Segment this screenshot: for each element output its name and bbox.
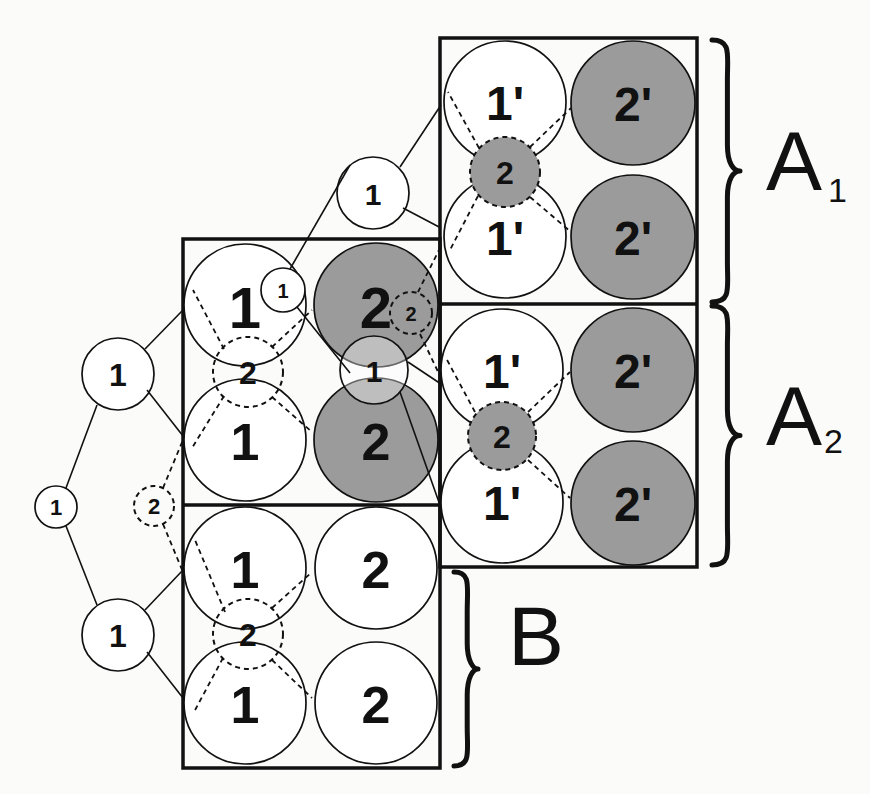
- b-node-2-top: 2: [315, 507, 437, 629]
- left-node-2-top-label: 2: [360, 275, 392, 340]
- edge-topnode-box-top: [400, 105, 441, 167]
- a1-node-2prime-top: 2': [571, 41, 695, 165]
- b-node-2-dashed-label: 2: [239, 617, 257, 653]
- tree-node-root-label: 1: [50, 495, 62, 520]
- label-a1-subscript: 1: [828, 171, 847, 209]
- label-a2-text: A: [766, 369, 822, 463]
- edge-upper-box-bottom: [147, 390, 183, 436]
- label-b-text: B: [508, 589, 564, 683]
- label-a2: A2: [766, 369, 843, 463]
- label-a2-subscript: 2: [824, 422, 843, 460]
- edge-upper-box-top: [145, 310, 183, 349]
- b-node-2-bottom: 2: [315, 642, 437, 764]
- left-node-1-bottom: 1: [184, 379, 306, 501]
- a2-node-2prime-top: 2': [571, 308, 695, 432]
- left-node-1-mid-label: 1: [366, 355, 383, 388]
- a2-node-2prime-bottom: 2': [571, 441, 695, 565]
- left-node-1-small: 1: [261, 268, 305, 312]
- left-node-2-bottom-label: 2: [362, 413, 391, 471]
- a1-node-1prime-top-label: 1': [486, 77, 524, 130]
- tree-node-lower: 1: [82, 599, 154, 671]
- edge-root-lower: [66, 526, 97, 605]
- grouping-diagram: 1'2'1'2'21'2'1'2'2121221211212211121 A1A…: [0, 0, 870, 794]
- b-node-1-top: 1: [184, 507, 306, 629]
- brace-b: [454, 572, 478, 766]
- edge-dashed2-down: [163, 524, 183, 572]
- tree-node-dashed-2: 2: [134, 486, 174, 526]
- brace-a2: [712, 306, 740, 565]
- brace-a1: [712, 40, 740, 302]
- a1-node-2-shared-label: 2: [496, 155, 514, 191]
- left-node-1-small-label: 1: [277, 280, 288, 302]
- a2-node-1prime-top-label: 1': [483, 345, 521, 398]
- b-node-1-top-label: 1: [231, 541, 260, 599]
- a2-node-2prime-top-label: 2': [614, 345, 652, 398]
- a1-node-2prime-bottom-label: 2': [614, 212, 652, 265]
- tree-node-upper: 1: [82, 338, 154, 410]
- left-node-2-small-dashed-label: 2: [405, 303, 416, 325]
- left-node-2-dashed-label: 2: [239, 355, 257, 391]
- edge-lower-box-bottom: [147, 652, 183, 698]
- circles-layer: 1'2'1'2'21'2'1'2'2121221211212211121: [35, 41, 695, 764]
- b-node-2-top-label: 2: [362, 541, 391, 599]
- edge-dashed2-up: [163, 440, 183, 488]
- a2-node-1prime-bottom-label: 1': [483, 477, 521, 530]
- a2-node-2-shared: 2: [468, 402, 536, 470]
- edge-lower-box-top: [145, 570, 183, 610]
- left-node-1-mid: 1: [340, 336, 408, 404]
- b-node-2-bottom-label: 2: [362, 676, 391, 734]
- a1-node-2prime-bottom: 2': [571, 175, 695, 299]
- tree-node-root: 1: [35, 486, 77, 528]
- left-node-1-bottom-label: 1: [231, 413, 260, 471]
- left-node-1-top-label: 1: [229, 275, 261, 340]
- b-node-1-bottom: 1: [184, 642, 306, 764]
- tree-node-upper-label: 1: [109, 357, 127, 393]
- tree-node-dashed-2-label: 2: [148, 494, 160, 519]
- a1-node-2prime-top-label: 2': [614, 78, 652, 131]
- label-a1-text: A: [766, 114, 822, 208]
- a2-node-2-shared-label: 2: [493, 419, 511, 455]
- edge-root-upper: [66, 405, 97, 488]
- tree-node-top-label: 1: [365, 178, 382, 211]
- label-b: B: [508, 589, 564, 683]
- a1-node-2-shared: 2: [470, 137, 540, 207]
- a2-node-2prime-bottom-label: 2': [614, 478, 652, 531]
- b-node-1-bottom-label: 1: [231, 676, 260, 734]
- edge-mid1-box-top: [408, 362, 441, 384]
- tree-node-lower-label: 1: [109, 618, 127, 654]
- edge-topnode-box-bottom: [403, 208, 441, 228]
- a1-node-1prime-bottom-label: 1': [486, 212, 524, 265]
- label-a1: A1: [766, 114, 847, 209]
